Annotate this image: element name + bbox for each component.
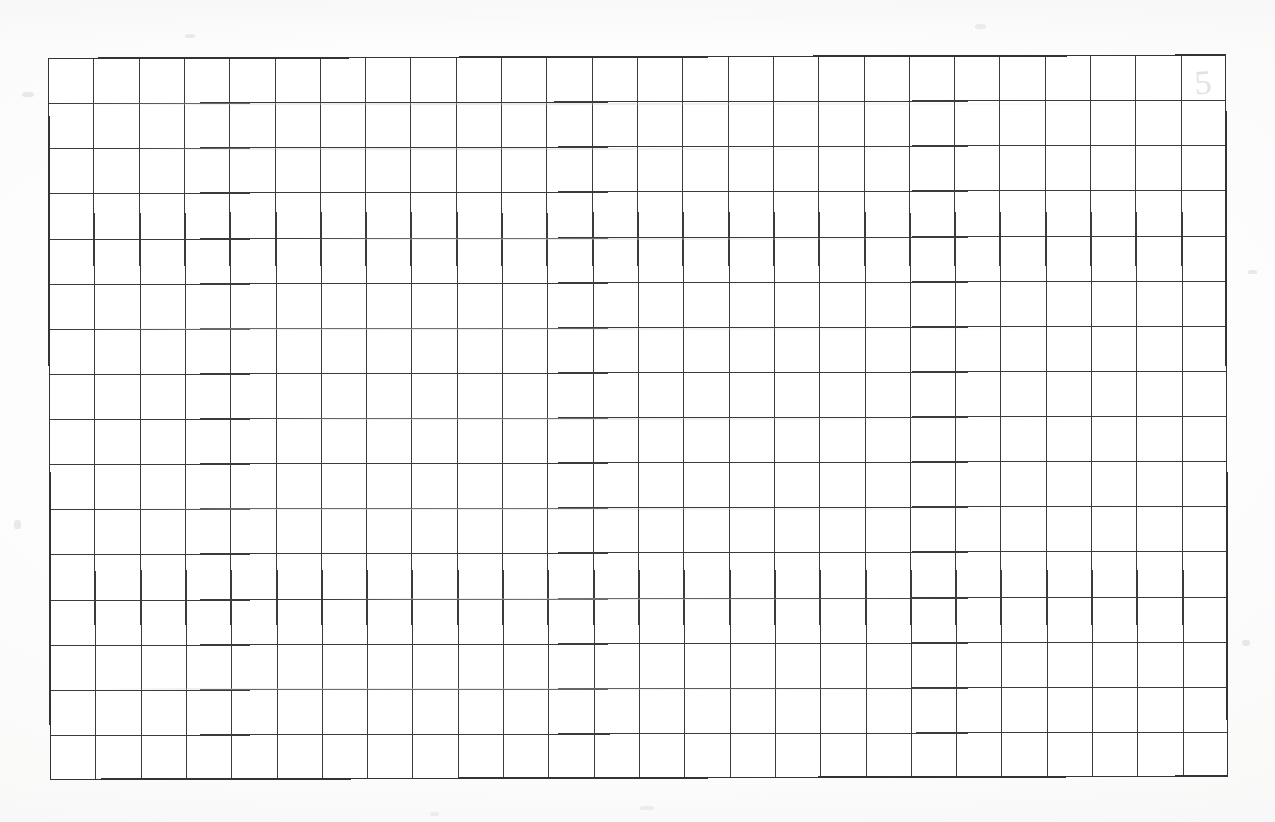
scan-speck: [640, 806, 654, 810]
top-text-remnant-label: · · · · · · · · · · · ·: [210, 0, 1110, 7]
grid-lines: [48, 55, 1228, 780]
scan-speck: [1248, 270, 1257, 274]
scan-speck: [22, 92, 34, 97]
scan-speck: [14, 520, 21, 529]
scan-speck: [430, 812, 439, 816]
blank-grid-table[interactable]: [48, 55, 1228, 780]
scan-speck: [185, 34, 195, 38]
scan-speck: [975, 24, 986, 29]
scanned-page: · · · · · · · · · · · · 5: [0, 0, 1275, 822]
scan-speck: [1242, 640, 1250, 646]
top-text-remnant: · · · · · · · · · · · ·: [0, 0, 1275, 16]
